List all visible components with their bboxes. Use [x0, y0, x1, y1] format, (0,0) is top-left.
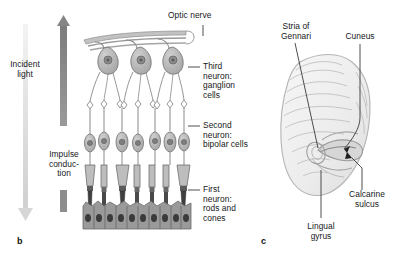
bipolar-cell [133, 108, 144, 165]
first-neuron-label: First neuron: rods and cones [203, 185, 263, 223]
cone-cell [116, 165, 129, 206]
bipolar-cell [179, 108, 190, 165]
ganglion-cell [157, 39, 184, 101]
inner-plexiform-layer [87, 100, 187, 109]
cuneus-label: Cuneus [336, 32, 384, 42]
second-neuron-label: Second neuron: bipolar cells [203, 121, 267, 150]
brain-outline [281, 55, 370, 196]
bipolar-cell [99, 108, 110, 165]
retina-diagram [83, 31, 194, 229]
rod-cell [134, 165, 140, 206]
rod-cell [163, 165, 169, 206]
figure-root: Incident light Impulse conduc- tion Opti… [0, 0, 402, 267]
impulse-conduction-arrow [57, 15, 70, 212]
photoreceptor-layer [85, 165, 190, 206]
ganglion-cell [90, 42, 120, 101]
panel-letter-b: b [17, 236, 23, 246]
bipolar-cell [116, 108, 128, 165]
pigment-epithelium-layer [83, 201, 191, 229]
bipolar-cell [150, 108, 161, 165]
calcarine-sulcus-label: Calcarine sulcus [338, 190, 396, 209]
impulse-conduction-label: Impulse conduc- tion [38, 150, 90, 179]
panel-letter-c: c [261, 236, 266, 246]
cone-cell [177, 165, 190, 206]
bipolar-cell-layer [85, 108, 190, 165]
ganglion-cell-layer [90, 39, 184, 101]
ganglion-cell [124, 40, 153, 101]
third-neuron-label: Third neuron: ganglion cells [203, 62, 263, 100]
incident-light-arrow [18, 24, 33, 221]
incident-light-label: Incident light [0, 60, 50, 79]
rod-cell [101, 165, 107, 206]
optic-nerve-label: Optic nerve [168, 11, 238, 21]
stria-of-gennari-label: Stria of Gennari [268, 22, 324, 41]
lingual-gyrus-label: Lingual gyrus [294, 222, 348, 241]
bipolar-cell [164, 108, 176, 165]
rod-cell [149, 165, 155, 206]
